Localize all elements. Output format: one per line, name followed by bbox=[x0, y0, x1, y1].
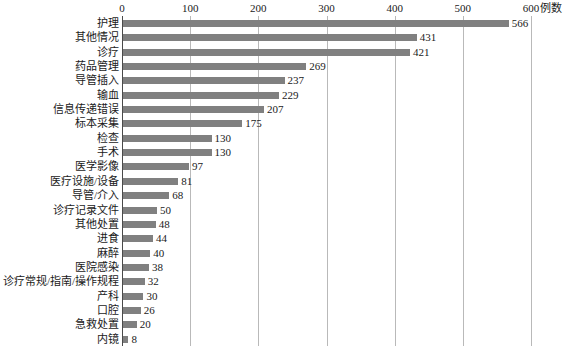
x-tick-label-0: 0 bbox=[119, 2, 125, 14]
bar bbox=[123, 135, 212, 142]
bar-value-label: 207 bbox=[267, 102, 284, 117]
bar bbox=[123, 264, 149, 271]
bar-value-label: 97 bbox=[192, 159, 203, 174]
bar-value-label: 130 bbox=[215, 131, 232, 146]
category-label: 医疗设施/设备 bbox=[50, 174, 119, 189]
axis-unit-label: 例数 bbox=[540, 2, 562, 14]
bar-row: 诊疗常规/指南/操作规程32 bbox=[122, 274, 531, 289]
bar-value-label: 81 bbox=[181, 174, 192, 189]
bar-value-label: 269 bbox=[309, 59, 326, 74]
bar-value-label: 566 bbox=[512, 16, 529, 31]
bar-row: 进食44 bbox=[122, 231, 531, 246]
bar bbox=[123, 20, 509, 27]
category-label: 医学影像 bbox=[75, 159, 119, 174]
bar-value-label: 8 bbox=[131, 332, 137, 347]
bar-row: 麻醉40 bbox=[122, 246, 531, 261]
bar bbox=[123, 120, 242, 127]
bar-chart: 例数 0100200300400500600 护理566其他情况431诊疗421… bbox=[0, 0, 573, 349]
gridline-600 bbox=[531, 16, 532, 346]
bar bbox=[123, 207, 157, 214]
category-label: 标本采集 bbox=[75, 116, 119, 131]
category-label: 检查 bbox=[97, 131, 119, 146]
bar bbox=[123, 149, 212, 156]
bar-value-label: 50 bbox=[160, 203, 171, 218]
bar-row: 其他处置48 bbox=[122, 217, 531, 232]
bar-row: 输血229 bbox=[122, 88, 531, 103]
bar-value-label: 20 bbox=[140, 317, 151, 332]
category-label: 急救处置 bbox=[75, 317, 119, 332]
bar-row: 其他情况431 bbox=[122, 30, 531, 45]
category-label: 导管插入 bbox=[75, 73, 119, 88]
bar bbox=[123, 235, 153, 242]
bar-row: 医疗设施/设备81 bbox=[122, 174, 531, 189]
bar-row: 医院感染38 bbox=[122, 260, 531, 275]
bar-value-label: 44 bbox=[156, 231, 167, 246]
category-label: 信息传递错误 bbox=[53, 102, 119, 117]
bar bbox=[123, 77, 285, 84]
category-label: 其他情况 bbox=[75, 30, 119, 45]
category-label: 手术 bbox=[97, 145, 119, 160]
category-label: 导管/介入 bbox=[72, 188, 119, 203]
x-tick-label-200: 200 bbox=[250, 2, 267, 14]
bar bbox=[123, 307, 141, 314]
bar bbox=[123, 336, 128, 343]
category-label: 其他处置 bbox=[75, 217, 119, 232]
bar-value-label: 421 bbox=[413, 45, 430, 60]
bar bbox=[123, 250, 150, 257]
category-label: 口腔 bbox=[97, 303, 119, 318]
bar bbox=[123, 49, 410, 56]
x-tick-label-100: 100 bbox=[182, 2, 199, 14]
bar-row: 手术130 bbox=[122, 145, 531, 160]
bar-value-label: 229 bbox=[282, 88, 299, 103]
category-label: 医院感染 bbox=[75, 260, 119, 275]
bar bbox=[123, 106, 264, 113]
bar-row: 医学影像97 bbox=[122, 159, 531, 174]
category-label: 麻醉 bbox=[97, 246, 119, 261]
bar-value-label: 32 bbox=[148, 274, 159, 289]
bar-value-label: 38 bbox=[152, 260, 163, 275]
bar-row: 导管/介入68 bbox=[122, 188, 531, 203]
category-label: 内镜 bbox=[97, 332, 119, 347]
bar-value-label: 431 bbox=[420, 30, 437, 45]
bar bbox=[123, 293, 143, 300]
category-label: 产科 bbox=[97, 289, 119, 304]
bar-value-label: 237 bbox=[288, 73, 305, 88]
bar bbox=[123, 92, 279, 99]
bar-row: 导管插入237 bbox=[122, 73, 531, 88]
category-label: 诊疗 bbox=[97, 45, 119, 60]
x-tick-label-300: 300 bbox=[318, 2, 335, 14]
bar-value-label: 48 bbox=[159, 217, 170, 232]
bar bbox=[123, 278, 145, 285]
bar-value-label: 40 bbox=[153, 246, 164, 261]
bar-row: 药品管理269 bbox=[122, 59, 531, 74]
bar-row: 内镜8 bbox=[122, 332, 531, 347]
category-label: 输血 bbox=[97, 88, 119, 103]
category-label: 药品管理 bbox=[75, 59, 119, 74]
bar-value-label: 26 bbox=[144, 303, 155, 318]
bar-value-label: 130 bbox=[215, 145, 232, 160]
bar-row: 信息传递错误207 bbox=[122, 102, 531, 117]
bar-value-label: 68 bbox=[172, 188, 183, 203]
bar bbox=[123, 321, 137, 328]
x-tick-label-500: 500 bbox=[455, 2, 472, 14]
bar bbox=[123, 178, 178, 185]
bar-row: 急救处置20 bbox=[122, 317, 531, 332]
bar bbox=[123, 221, 156, 228]
bar-row: 诊疗421 bbox=[122, 45, 531, 60]
bar bbox=[123, 192, 169, 199]
bar-row: 产科30 bbox=[122, 289, 531, 304]
bar bbox=[123, 34, 417, 41]
category-label: 诊疗常规/指南/操作规程 bbox=[3, 274, 119, 289]
bar bbox=[123, 63, 306, 70]
bar-row: 诊疗记录文件50 bbox=[122, 203, 531, 218]
bar-value-label: 175 bbox=[245, 116, 262, 131]
bar-row: 标本采集175 bbox=[122, 116, 531, 131]
category-label: 进食 bbox=[97, 231, 119, 246]
bar bbox=[123, 163, 189, 170]
x-tick-label-400: 400 bbox=[386, 2, 403, 14]
plot-area: 0100200300400500600 护理566其他情况431诊疗421药品管… bbox=[122, 16, 531, 346]
x-tick-label-600: 600 bbox=[523, 2, 540, 14]
category-label: 护理 bbox=[97, 16, 119, 31]
bar-value-label: 30 bbox=[146, 289, 157, 304]
bar-row: 护理566 bbox=[122, 16, 531, 31]
